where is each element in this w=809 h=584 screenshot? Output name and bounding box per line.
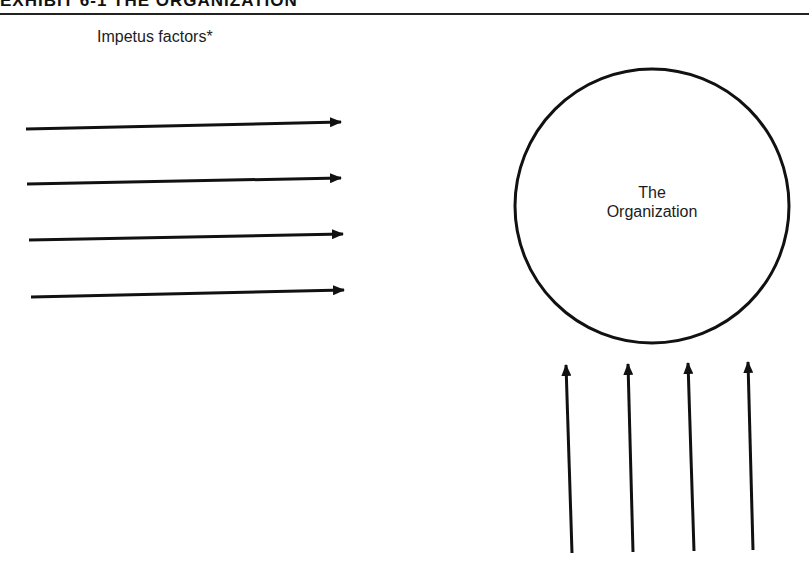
- vertical-arrow-icon-2: [628, 364, 633, 552]
- organization-label-line2: Organization: [572, 202, 732, 221]
- horizontal-arrow-icon-3: [29, 234, 343, 240]
- horizontal-arrow-icon-2: [27, 178, 341, 184]
- horizontal-arrow-icon-4: [31, 290, 344, 297]
- vertical-arrow-icon-4: [748, 362, 753, 550]
- horizontal-impetus-arrows: [26, 122, 344, 297]
- horizontal-arrow-icon-1: [26, 122, 341, 129]
- vertical-impetus-arrows: [566, 362, 753, 553]
- organization-label: The Organization: [572, 183, 732, 221]
- vertical-arrow-icon-1: [566, 365, 572, 553]
- impetus-diagram: [0, 0, 809, 584]
- organization-label-line1: The: [572, 183, 732, 202]
- vertical-arrow-icon-3: [688, 363, 694, 551]
